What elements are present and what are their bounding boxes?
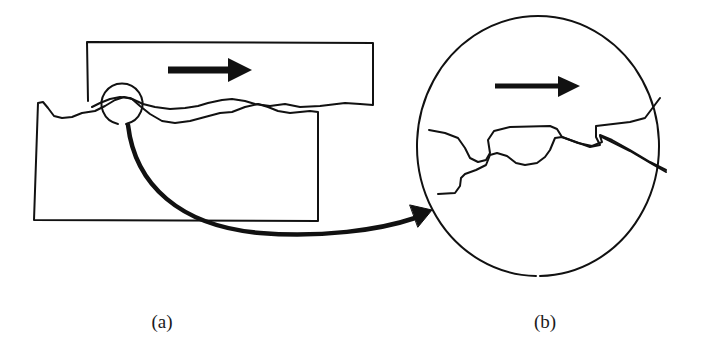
friction-contact-diagram (0, 0, 702, 355)
sliding-direction-arrow (168, 58, 252, 82)
connector-arrow (128, 125, 415, 235)
lower-block (34, 97, 318, 221)
caption-a: (a) (151, 311, 172, 333)
lower-surface-profile (438, 136, 666, 194)
upper-surface-profile (429, 98, 660, 162)
panel-b (417, 16, 666, 276)
caption-b: (b) (534, 311, 556, 333)
panel-a (34, 42, 432, 235)
sliding-direction-arrow-b (495, 76, 580, 97)
connector-arrowhead (410, 205, 432, 227)
